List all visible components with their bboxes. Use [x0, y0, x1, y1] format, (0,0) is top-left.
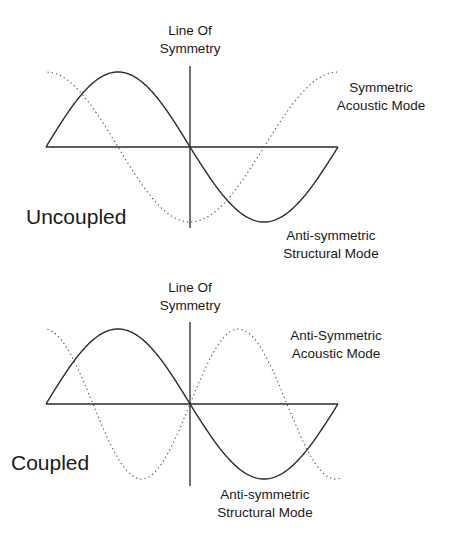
- structural-mode-label-top-1: Anti-symmetric: [286, 228, 376, 243]
- acoustic-mode-label-top-2: Acoustic Mode: [337, 98, 426, 113]
- structural-mode-label-top-2: Structural Mode: [283, 246, 378, 261]
- coupled-label: Coupled: [11, 451, 89, 474]
- uncoupled-label: Uncoupled: [26, 205, 126, 228]
- mode-coupling-diagram: Line Of Symmetry Symmetric Acoustic Mode…: [0, 0, 462, 534]
- acoustic-mode-label-bottom-2: Acoustic Mode: [292, 346, 381, 361]
- coupled-diagram: Line Of Symmetry Anti-Symmetric Acoustic…: [11, 280, 382, 520]
- acoustic-mode-label-bottom-1: Anti-Symmetric: [290, 328, 382, 343]
- uncoupled-diagram: Line Of Symmetry Symmetric Acoustic Mode…: [26, 23, 425, 261]
- symmetry-line-label-bottom-2: Symmetry: [160, 298, 221, 313]
- symmetry-line-label-top-1: Line Of: [168, 23, 212, 38]
- structural-mode-label-bottom-1: Anti-symmetric: [220, 487, 310, 502]
- structural-mode-label-bottom-2: Structural Mode: [217, 505, 312, 520]
- symmetry-line-label-top-2: Symmetry: [160, 41, 221, 56]
- acoustic-mode-label-top-1: Symmetric: [349, 80, 413, 95]
- symmetry-line-label-bottom-1: Line Of: [168, 280, 212, 295]
